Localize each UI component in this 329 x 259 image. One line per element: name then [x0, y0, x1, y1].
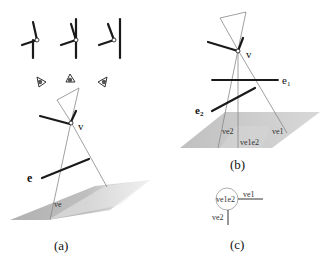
- caption-a: (a): [54, 238, 68, 253]
- figure-canvas: v e ve (a) v e1 e2 ve2 ve1e2 ve: [0, 0, 329, 259]
- label-branch-ve2: ve2: [212, 213, 224, 222]
- vertex-v: [69, 121, 73, 125]
- viewpoint-glyph-1: [37, 77, 46, 87]
- label-v: v: [78, 120, 84, 132]
- viewpoint-glyph-3: [98, 77, 107, 87]
- edge-e: [42, 159, 89, 178]
- junction-glyph-3: [99, 19, 120, 58]
- junction-glyph-2: [61, 19, 78, 58]
- label-e1: e1: [282, 74, 291, 88]
- label-branch-ve1: ve1: [243, 190, 255, 199]
- label-v-b: v: [246, 48, 252, 60]
- label-ve1: ve1: [272, 127, 284, 136]
- edge-e2: [212, 88, 255, 111]
- panel-b: v e1 e2 ve2 ve1e2 ve1 (b): [180, 12, 320, 172]
- panel-a: v e ve (a): [10, 19, 150, 253]
- label-ve1e2: ve1e2: [240, 138, 259, 147]
- junction-glyph-1: [22, 22, 39, 58]
- label-e2: e2: [195, 104, 204, 118]
- panel-c: ve1e2 ve1 ve2 (c): [212, 188, 263, 252]
- label-ve2: ve2: [222, 127, 234, 136]
- caption-b: (b): [230, 157, 245, 172]
- caption-c: (c): [230, 237, 244, 252]
- vertex-v-b: [236, 49, 240, 53]
- label-node-ve1e2: ve1e2: [216, 195, 235, 204]
- viewpoint-glyph-2: [66, 74, 75, 82]
- label-ve: ve: [54, 200, 62, 209]
- label-e: e: [27, 171, 33, 185]
